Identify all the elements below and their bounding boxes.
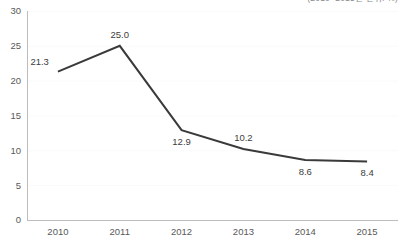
data-point-hitareas: [51, 39, 374, 169]
data-series-line: [58, 46, 367, 162]
data-point-2013[interactable]: [236, 142, 250, 156]
y-axis-tick-label: 20: [10, 75, 21, 86]
x-axis-tick-label: 2015: [357, 226, 378, 237]
x-axis-tick-label: 2013: [233, 226, 254, 237]
y-axis-tick-label: 10: [10, 145, 21, 156]
data-point-label: 21.3: [30, 56, 49, 67]
y-axis-tick-label: 0: [16, 214, 21, 225]
y-axis-tick-label: 30: [10, 5, 21, 16]
data-point-label: 10.2: [234, 132, 253, 143]
data-point-labels: 21.325.012.910.28.68.4: [30, 29, 373, 179]
x-axis-tick-label: 2014: [295, 226, 316, 237]
x-axis-tick-label: 2012: [171, 226, 192, 237]
y-axis-tick-label: 15: [10, 110, 21, 121]
chart-canvas: 051015202530 201020112012201320142015 21…: [0, 0, 403, 241]
y-axis-tick-label: 5: [16, 180, 21, 191]
line-chart-figure: (2010~2015년 단위: %) 051015202530 20102011…: [0, 0, 403, 241]
x-axis-tick-labels: 201020112012201320142015: [47, 226, 377, 237]
data-point-label: 12.9: [172, 136, 191, 147]
data-point-2010[interactable]: [51, 65, 65, 79]
data-point-2011[interactable]: [113, 39, 127, 53]
y-axis-tick-label: 25: [10, 40, 21, 51]
data-point-2015[interactable]: [360, 154, 374, 168]
data-point-label: 8.6: [299, 166, 312, 177]
data-point-label: 8.4: [360, 167, 373, 178]
data-point-label: 25.0: [111, 29, 130, 40]
data-point-2014[interactable]: [298, 153, 312, 167]
data-point-2012[interactable]: [175, 123, 189, 137]
gridline-group: [27, 12, 398, 186]
x-axis-tick-label: 2011: [110, 226, 130, 237]
y-axis-tick-labels: 051015202530: [10, 5, 21, 225]
x-axis-tick-label: 2010: [47, 226, 68, 237]
